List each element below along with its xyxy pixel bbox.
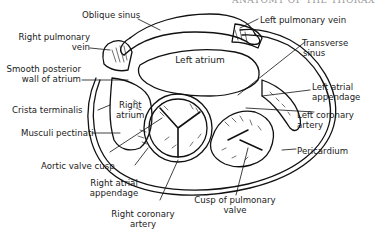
label-pericardium: Pericardium	[297, 146, 348, 156]
label-left-pulmonary-vein: Left pulmonary vein	[260, 15, 346, 25]
label-transverse-sinus: Transversesinus	[302, 38, 348, 58]
label-right-coronary-artery: Right coronaryartery	[108, 209, 178, 229]
label-right-atrium: Rightatrium	[116, 100, 144, 120]
label-right-pulmonary-vein: Right pulmonaryvein	[10, 32, 90, 52]
label-cusp-of-pulmonary-valve: Cusp of pulmonaryvalve	[190, 195, 280, 215]
label-musculi-pectinati: Musculi pectinati	[21, 128, 94, 138]
left-atrial-appendage	[262, 80, 300, 130]
label-aortic-valve-cusp: Aortic valve cusp	[41, 161, 115, 171]
label-left-coronary-artery: Left coronaryartery	[297, 110, 354, 130]
label-smooth-posterior-wall: Smooth posteriorwall of atrium	[0, 64, 81, 84]
label-right-atrial-appendage: Right atrialappendage	[84, 178, 144, 198]
label-left-atrium: Left atrium	[150, 55, 250, 65]
label-left-atrial-appendage: Left atrialappendage	[312, 82, 360, 102]
label-crista-terminalis: Crista terminalis	[12, 105, 83, 115]
label-oblique-sinus: Oblique sinus	[82, 10, 140, 20]
